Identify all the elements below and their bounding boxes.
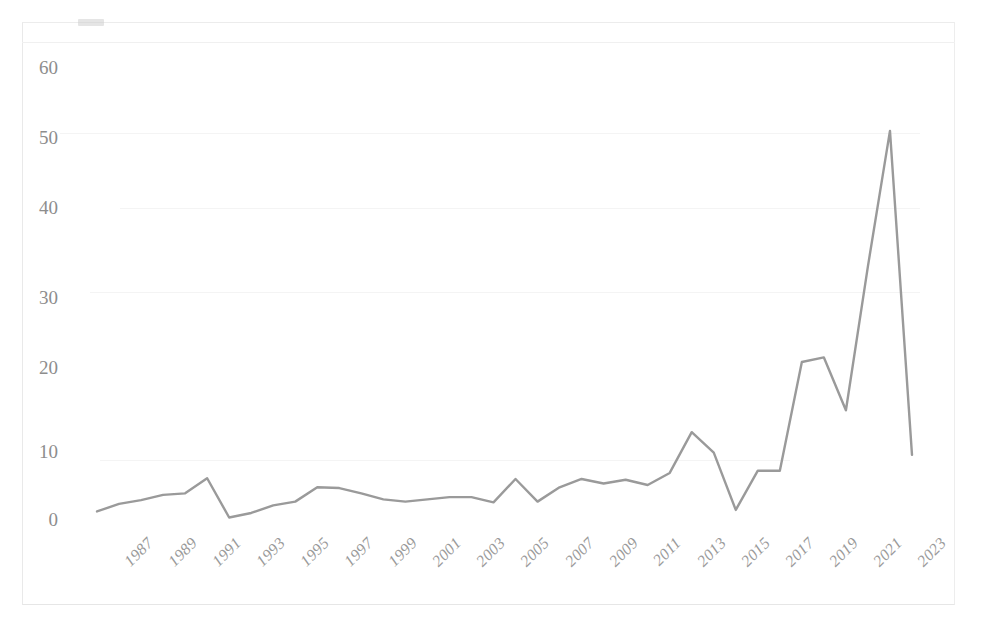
x-axis-tick-2019: 2019 bbox=[826, 534, 862, 570]
x-axis-tick-2023: 2023 bbox=[914, 534, 950, 570]
x-axis-tick-1995: 1995 bbox=[297, 534, 333, 570]
x-axis-tick-2021: 2021 bbox=[870, 534, 906, 570]
x-axis-tick-2015: 2015 bbox=[737, 534, 773, 570]
x-axis-tick-1991: 1991 bbox=[209, 534, 245, 570]
x-axis-tick-2003: 2003 bbox=[473, 534, 509, 570]
x-axis-tick-1989: 1989 bbox=[165, 534, 201, 570]
x-axis-tick-1993: 1993 bbox=[253, 534, 289, 570]
x-axis-tick-2011: 2011 bbox=[649, 534, 684, 569]
x-axis-tick-2013: 2013 bbox=[693, 534, 729, 570]
x-axis-tick-2009: 2009 bbox=[605, 534, 641, 570]
x-axis-tick-1999: 1999 bbox=[385, 534, 421, 570]
x-axis-tick-2017: 2017 bbox=[782, 534, 818, 570]
x-axis-tick-2001: 2001 bbox=[429, 534, 465, 570]
x-axis-tick-2007: 2007 bbox=[561, 534, 597, 570]
x-axis-tick-labels: 1987198919911993199519971999200120032005… bbox=[0, 0, 981, 631]
line-chart: 60 50 40 30 20 10 0 19871989199119931995… bbox=[0, 0, 981, 631]
x-axis-tick-2005: 2005 bbox=[517, 534, 553, 570]
x-axis-tick-1997: 1997 bbox=[341, 534, 377, 570]
x-axis-tick-1987: 1987 bbox=[121, 534, 157, 570]
